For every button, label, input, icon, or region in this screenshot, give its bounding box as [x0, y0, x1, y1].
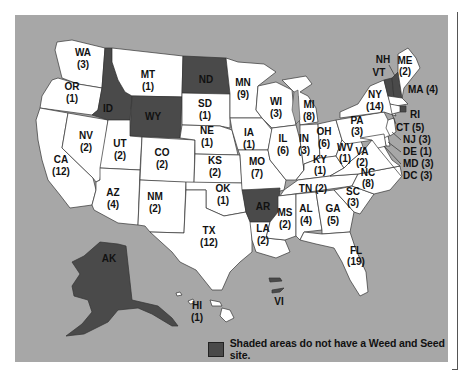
state-hi-1	[176, 292, 182, 296]
label-ny: NY	[368, 89, 382, 100]
state-nm	[138, 180, 186, 233]
state-ct	[390, 104, 400, 114]
leader-de	[388, 142, 401, 152]
label-wv: WV	[337, 142, 353, 153]
label-ks: KS	[208, 155, 222, 166]
label-la-count: (2)	[257, 235, 269, 246]
label-nj: NJ (3)	[403, 134, 431, 145]
label-in: IN	[299, 133, 309, 144]
label-mn-count: (9)	[237, 89, 249, 100]
label-sd: SD	[198, 98, 212, 109]
state-ri	[400, 106, 406, 112]
label-ca-count: (12)	[52, 166, 70, 177]
label-pa-count: (3)	[351, 126, 363, 137]
label-wa: WA	[75, 47, 91, 58]
label-ca: CA	[54, 154, 68, 165]
label-ne-count: (1)	[201, 137, 213, 148]
label-az: AZ	[106, 187, 119, 198]
label-nm: NM	[147, 191, 163, 202]
leader-nh	[389, 65, 395, 76]
map-legend: Shaded areas do not have a Weed and Seed…	[208, 337, 463, 361]
us-map: WA (3) OR (1) CA (12) NV (2) ID MT (1) W…	[0, 0, 463, 375]
label-oh: OH	[317, 126, 332, 137]
label-tx: TX	[203, 225, 216, 236]
label-ok-count: (1)	[217, 195, 229, 206]
state-ak	[66, 242, 178, 336]
label-ut: UT	[113, 138, 126, 149]
label-vi: VI	[274, 296, 284, 307]
label-dc: DC (3)	[403, 170, 432, 181]
label-ri: RI	[410, 109, 420, 120]
label-mo-count: (7)	[251, 168, 263, 179]
label-sc: SC	[346, 186, 360, 197]
label-fl-count: (19)	[347, 256, 365, 267]
label-ks-count: (2)	[209, 167, 221, 178]
label-il: IL	[279, 133, 288, 144]
label-or-count: (1)	[66, 93, 78, 104]
label-wi: WI	[270, 96, 282, 107]
label-tn: TN (2)	[299, 183, 327, 194]
label-nh: NH	[376, 54, 390, 65]
state-hi-3	[210, 300, 222, 306]
label-va-count: (2)	[356, 157, 368, 168]
label-me-count: (2)	[399, 66, 411, 77]
label-or: OR	[65, 81, 81, 92]
label-nd: ND	[199, 74, 213, 85]
label-ma: MA (4)	[408, 84, 438, 95]
label-ct: CT (5)	[396, 122, 424, 133]
label-in-count: (3)	[298, 145, 310, 156]
label-de: DE (1)	[403, 146, 432, 157]
label-tx-count: (12)	[200, 237, 218, 248]
label-nm-count: (2)	[149, 203, 161, 214]
label-nc: NC	[361, 167, 375, 178]
label-va: VA	[355, 146, 368, 157]
label-hi: HI	[192, 300, 202, 311]
label-fl: FL	[350, 245, 362, 256]
label-ia: IA	[244, 127, 254, 138]
label-me: ME	[398, 55, 413, 66]
territory-vi-2	[272, 288, 284, 293]
label-ky-count: (1)	[314, 165, 326, 176]
label-wi-count: (3)	[270, 108, 282, 119]
label-ar: AR	[256, 201, 271, 212]
label-ga-count: (5)	[327, 215, 339, 226]
label-ut-count: (2)	[114, 150, 126, 161]
label-co-count: (2)	[156, 159, 168, 170]
label-al-count: (4)	[300, 215, 312, 226]
label-sd-count: (1)	[199, 110, 211, 121]
label-ia-count: (1)	[243, 139, 255, 150]
label-ne: NE	[200, 125, 214, 136]
label-id: ID	[103, 103, 113, 114]
label-pa: PA	[350, 115, 363, 126]
label-il-count: (6)	[277, 145, 289, 156]
label-al: AL	[299, 203, 312, 214]
label-mi: MI	[303, 99, 314, 110]
label-mt-count: (1)	[142, 81, 154, 92]
label-mo: MO	[249, 156, 265, 167]
label-ok: OK	[216, 183, 232, 194]
label-ak: AK	[102, 253, 117, 264]
territory-vi-1	[269, 278, 282, 282]
label-ga: GA	[326, 203, 341, 214]
leader-nj	[392, 132, 401, 140]
label-sc-count: (3)	[347, 197, 359, 208]
label-wa-count: (3)	[77, 59, 89, 70]
label-nc-count: (8)	[362, 178, 374, 189]
label-la: LA	[256, 223, 269, 234]
label-hi-count: (1)	[191, 312, 203, 323]
label-mi-count: (8)	[303, 111, 315, 122]
label-ms: MS	[278, 207, 293, 218]
label-md: MD (3)	[403, 158, 434, 169]
label-ky: KY	[313, 154, 327, 165]
legend-swatch-shaded	[208, 342, 224, 357]
label-ny-count: (14)	[366, 101, 384, 112]
label-wv-count: (1)	[339, 153, 351, 164]
legend-text: Shaded areas do not have a Weed and Seed…	[230, 337, 463, 361]
label-mn: MN	[235, 77, 251, 88]
label-nv: NV	[79, 130, 93, 141]
label-co: CO	[155, 147, 170, 158]
label-ms-count: (2)	[279, 219, 291, 230]
label-mt: MT	[141, 69, 155, 80]
state-hi-4	[220, 308, 234, 322]
label-az-count: (4)	[107, 199, 119, 210]
